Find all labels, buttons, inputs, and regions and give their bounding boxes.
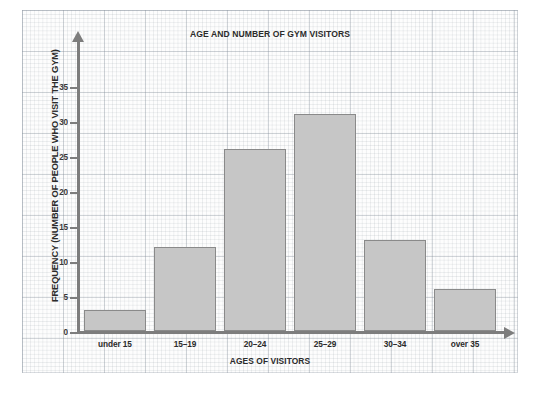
x-tick-label-20-24: 20–24 xyxy=(226,339,283,349)
y-tick-label-0: 0 xyxy=(51,326,68,337)
x-tick-label-over-35: over 35 xyxy=(436,339,493,349)
y-tick-10 xyxy=(70,262,77,264)
bar-chart-plot: AGE AND NUMBER OF GYM VISITORS 0 5 10 15… xyxy=(0,0,540,393)
bar-15-19 xyxy=(154,247,216,331)
y-tick-0 xyxy=(70,332,77,334)
bar-30-34 xyxy=(364,240,426,331)
bar-20-24 xyxy=(224,149,286,331)
y-tick-30 xyxy=(70,122,77,124)
y-axis-arrow-icon xyxy=(72,31,84,42)
y-axis-title: FREQUENCY (NUMBER OF PEOPLE WHO VISIT TH… xyxy=(50,72,60,302)
chart-title: AGE AND NUMBER OF GYM VISITORS xyxy=(27,28,513,39)
y-tick-25 xyxy=(70,157,77,159)
y-axis-line xyxy=(77,40,80,333)
x-axis-title: AGES OF VISITORS xyxy=(27,356,513,366)
bar-25-29 xyxy=(294,114,356,331)
x-tick-label-30-34: 30–34 xyxy=(366,339,423,349)
chart-page: AGE AND NUMBER OF GYM VISITORS 0 5 10 15… xyxy=(0,0,540,393)
x-tick-label-15-19: 15–19 xyxy=(156,339,213,349)
y-tick-20 xyxy=(70,192,77,194)
bar-over-35 xyxy=(434,289,496,331)
x-axis-line xyxy=(77,331,505,334)
bar-under-15 xyxy=(84,310,146,331)
x-tick-label-25-29: 25–29 xyxy=(296,339,353,349)
x-tick-label-under-15: under 15 xyxy=(86,339,143,349)
y-tick-35 xyxy=(70,87,77,89)
y-tick-5 xyxy=(70,297,77,299)
x-axis-arrow-icon xyxy=(504,327,515,339)
y-tick-15 xyxy=(70,227,77,229)
